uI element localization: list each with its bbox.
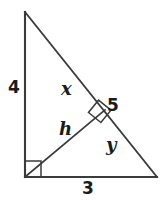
label-base-3: 3 [82, 180, 94, 197]
geometry-figure: 4 3 5 x h y [0, 0, 167, 200]
triangle-drawing [0, 0, 167, 200]
triangle-side-hypotenuse [25, 12, 157, 177]
label-hypotenuse-upper-x: x [61, 80, 72, 98]
label-lower-segment-y: y [106, 136, 116, 154]
label-vertical-leg-4: 4 [8, 79, 20, 96]
label-altitude-h: h [59, 120, 72, 138]
label-hypotenuse-segment-5: 5 [107, 97, 119, 114]
